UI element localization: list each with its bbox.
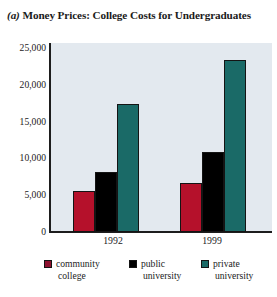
legend-label-public-university: publicuniversity bbox=[141, 258, 181, 281]
legend-item-community-college: communitycollege bbox=[44, 258, 100, 281]
chart-title: (a) Money Prices: College Costs for Unde… bbox=[7, 9, 271, 21]
x-tick-label-1999: 1999 bbox=[202, 235, 222, 246]
chart-legend: communitycollege publicuniversity privat… bbox=[44, 258, 274, 292]
bar-private-university-1999 bbox=[224, 60, 246, 232]
legend-swatch-icon-public-university bbox=[129, 260, 137, 268]
y-tick-label: 20,000 bbox=[2, 78, 46, 89]
y-tick-label: 0 bbox=[2, 226, 46, 237]
x-tick-label-1992: 1992 bbox=[103, 235, 123, 246]
bar-public-university-1999 bbox=[202, 152, 224, 232]
y-tick-label: 10,000 bbox=[2, 152, 46, 163]
legend-label-line2: university bbox=[213, 270, 253, 282]
chart-figure: (a) Money Prices: College Costs for Unde… bbox=[0, 0, 277, 297]
bar-private-university-1992 bbox=[117, 104, 139, 232]
legend-swatch-icon-community-college bbox=[44, 260, 52, 268]
bar-group-1992 bbox=[51, 43, 161, 232]
legend-label-line2: university bbox=[141, 270, 181, 282]
bar-community-college-1992 bbox=[73, 191, 95, 232]
bar-public-university-1992 bbox=[95, 172, 117, 232]
legend-label-line1: community bbox=[56, 258, 100, 269]
legend-label-line1: private bbox=[213, 258, 240, 269]
legend-label-line1: public bbox=[141, 258, 165, 269]
y-axis-ticks: 0 5,000 10,000 15,000 20,000 25,000 bbox=[0, 0, 46, 297]
y-tick-label: 25,000 bbox=[2, 42, 46, 53]
chart-title-text: Money Prices: College Costs for Undergra… bbox=[20, 9, 251, 21]
legend-label-private-university: privateuniversity bbox=[213, 258, 253, 281]
legend-swatch-icon-private-university bbox=[201, 260, 209, 268]
bar-community-college-1999 bbox=[180, 183, 202, 232]
legend-item-private-university: privateuniversity bbox=[201, 258, 253, 281]
legend-label-community-college: communitycollege bbox=[56, 258, 100, 281]
legend-item-public-university: publicuniversity bbox=[129, 258, 181, 281]
y-tick-label: 5,000 bbox=[2, 189, 46, 200]
y-tick-label: 15,000 bbox=[2, 115, 46, 126]
legend-label-line2: college bbox=[56, 270, 100, 282]
bar-group-1999 bbox=[161, 43, 271, 232]
